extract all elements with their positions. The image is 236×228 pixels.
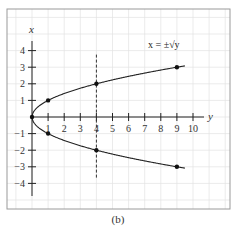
grid-lines <box>7 9 230 209</box>
svg-text:−4: −4 <box>14 178 25 189</box>
svg-text:3: 3 <box>78 123 83 134</box>
svg-text:2: 2 <box>62 123 67 134</box>
figure-caption: (b) <box>0 213 236 225</box>
svg-text:5: 5 <box>110 123 115 134</box>
frame <box>7 9 230 209</box>
svg-text:−1: −1 <box>14 128 25 139</box>
svg-text:10: 10 <box>188 123 198 134</box>
svg-text:−2: −2 <box>14 145 25 156</box>
svg-text:6: 6 <box>126 123 131 134</box>
axes <box>32 41 204 196</box>
svg-text:8: 8 <box>158 123 163 134</box>
svg-text:4: 4 <box>20 45 25 56</box>
svg-text:7: 7 <box>142 123 147 134</box>
parabola-chart: 12345678910−4−3−2−11234 y x x = ±√y <box>0 0 236 228</box>
equation-label: x = ±√y <box>148 39 180 50</box>
vertical-axis-label: x <box>28 23 34 35</box>
svg-text:3: 3 <box>20 62 25 73</box>
svg-text:−3: −3 <box>14 161 25 172</box>
horizontal-axis-label: y <box>207 110 213 122</box>
svg-text:1: 1 <box>20 95 25 106</box>
svg-text:2: 2 <box>20 78 25 89</box>
svg-text:9: 9 <box>174 123 179 134</box>
